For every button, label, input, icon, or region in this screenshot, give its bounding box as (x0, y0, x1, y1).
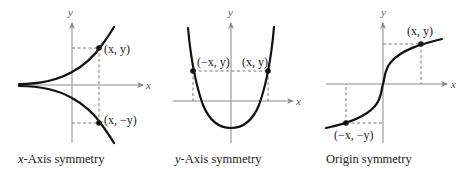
panel-x-axis-symmetry: y x (x, y) (x, −y) (18, 6, 151, 143)
x-axis-label: x (295, 95, 301, 107)
point-x-y (418, 41, 424, 47)
panel-origin-symmetry: y x (x, y) (−x, −y) (326, 6, 456, 143)
y-axis-label: y (67, 6, 73, 18)
caption-text: -Axis symmetry (24, 152, 105, 166)
upper-curve (19, 27, 114, 84)
point-label: (−x, −y) (334, 128, 374, 142)
point-x-y (96, 45, 102, 51)
caption-y-axis-symmetry: y-Axis symmetry (175, 152, 261, 167)
y-axis-label: y (380, 6, 386, 18)
x-axis-label: x (450, 78, 456, 90)
point-label: (x, −y) (104, 113, 137, 127)
point-label: (x, y) (407, 24, 433, 38)
caption-origin-symmetry: Origin symmetry (326, 152, 412, 167)
caption-text: -Axis symmetry (181, 152, 262, 166)
point-neg-x-y (190, 68, 196, 74)
point-neg-x-neg-y (343, 120, 349, 126)
point-label: (x, y) (104, 42, 130, 56)
point-x-y (265, 68, 271, 74)
y-axis-label: y (227, 6, 233, 18)
x-axis-label: x (145, 79, 151, 91)
point-label: (x, y) (242, 55, 268, 69)
caption-text: Origin symmetry (326, 152, 412, 166)
lower-curve (19, 86, 114, 143)
caption-x-axis-symmetry: x-Axis symmetry (18, 152, 104, 167)
point-label: (−x, y) (197, 55, 230, 69)
point-x-neg-y (96, 120, 102, 126)
panel-y-axis-symmetry: y x (−x, y) (x, y) (173, 6, 301, 143)
